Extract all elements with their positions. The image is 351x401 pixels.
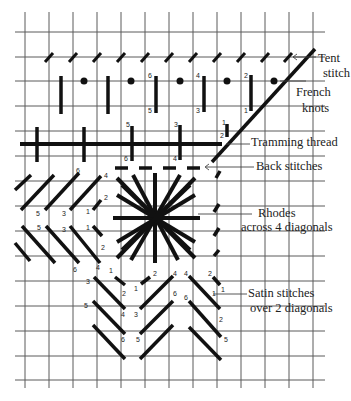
label-tramming: Tramming thread <box>251 135 338 149</box>
stitch-number: 6 <box>148 72 152 79</box>
stitch-number: 4 <box>96 264 100 271</box>
stitch-number: 2 <box>101 244 105 251</box>
label-rhodes-1: Rhodes <box>258 206 296 220</box>
stitch-number: 6 <box>121 336 125 343</box>
stitch-number: 1 <box>134 285 138 292</box>
label-tent-1: Tent <box>318 51 341 65</box>
stitch-number: 4 <box>196 72 200 79</box>
stitch-number: 3 <box>86 278 90 285</box>
stitch-number: 5 <box>224 336 228 343</box>
stitch-number: 5 <box>36 210 40 217</box>
stitch-number: 5 <box>126 121 130 128</box>
stitch-number: 1 <box>86 208 90 215</box>
stitch-number: 4 <box>173 155 177 162</box>
stitch-number: 2 <box>122 290 126 297</box>
stitch-number: 2 <box>220 132 224 139</box>
stitch-number: 2 <box>244 72 248 79</box>
label-french-1: French <box>296 85 331 99</box>
stitch-number: 5 <box>136 336 140 343</box>
label-satin-1: Satin stitches <box>248 286 314 300</box>
stitch-labels: Tent stitch French knots Tramming thread… <box>241 51 351 315</box>
label-french-2: knots <box>302 101 329 115</box>
satin-stitches <box>93 276 221 360</box>
stitch-number: 3 <box>134 311 138 318</box>
stitch-number: 1 <box>86 224 90 231</box>
stitch-number: 2 <box>104 194 108 201</box>
stitch-number: 6 <box>124 155 128 162</box>
stitch-number: 1 <box>244 107 248 114</box>
label-satin-2: over 2 diagonals <box>250 301 333 315</box>
rhodes-stitch <box>113 173 200 263</box>
label-tent-2: stitch <box>323 66 351 80</box>
label-rhodes-2: across 4 diagonals <box>241 220 333 234</box>
stitch-number: 5 <box>37 224 41 231</box>
stitch-number: 5 <box>148 107 152 114</box>
stitch-number: 6 <box>73 266 77 273</box>
stitch-number: 1 <box>221 286 225 293</box>
canvas-grid <box>15 12 325 388</box>
stitch-number: 4 <box>184 270 188 277</box>
stitch-number: 6 <box>76 167 80 174</box>
stitch-diagram: 6543215634126421535312643121244215436612… <box>0 0 351 401</box>
stitch-number: 2 <box>153 270 157 277</box>
stitch-number: 3 <box>62 210 66 217</box>
stitch-number: 1 <box>109 267 113 274</box>
stitch-number: 1 <box>222 119 226 126</box>
label-back-stitches: Back stitches <box>256 159 322 173</box>
stitch-number: 3 <box>196 107 200 114</box>
diagram-canvas: 6543215634126421535312643121244215436612… <box>0 0 351 401</box>
stitch-number: 4 <box>173 270 177 277</box>
stitch-number: 2 <box>208 270 212 277</box>
left-diagonals <box>15 173 102 263</box>
stitch-number: 6 <box>173 290 177 297</box>
stitch-number: 6 <box>184 294 188 301</box>
stitch-number: 4 <box>121 311 125 318</box>
stitch-number: 3 <box>174 121 178 128</box>
stitch-number: 5 <box>84 302 88 309</box>
stitch-number: 3 <box>62 226 66 233</box>
stitch-number: 4 <box>104 172 108 179</box>
stitch-number: 1 <box>212 290 216 297</box>
stitch-number: 2 <box>219 316 223 323</box>
